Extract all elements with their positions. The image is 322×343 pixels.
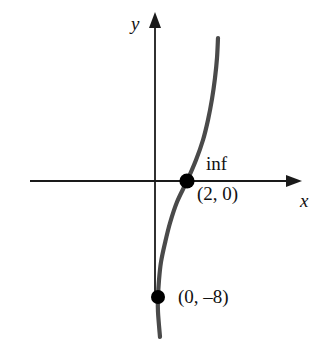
y-intercept-marker (151, 290, 165, 304)
inflection-point-marker (179, 173, 194, 188)
graph-canvas (0, 0, 322, 343)
y-axis-label: y (131, 14, 139, 33)
inflection-point-label: (2, 0) (197, 184, 238, 203)
x-axis-arrow-icon (286, 175, 302, 187)
graph-figure: y x inf (2, 0) (0, –8) (0, 0, 322, 343)
axes-group (30, 12, 302, 296)
inflection-note-label: inf (206, 154, 227, 173)
y-axis-arrow-icon (149, 12, 161, 28)
x-axis-label: x (300, 191, 308, 210)
y-intercept-label: (0, –8) (178, 287, 229, 306)
